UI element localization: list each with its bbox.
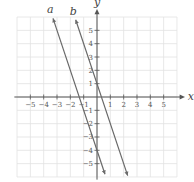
x-axis-label: x	[188, 90, 194, 103]
y-tick-label: 5	[89, 27, 93, 35]
arrowhead-icon	[124, 171, 128, 175]
arrowhead-icon	[52, 18, 56, 22]
y-tick-label: −5	[83, 160, 93, 168]
x-axis-arrow-icon	[180, 95, 185, 100]
x-tick-label: −4	[39, 101, 50, 109]
x-tick-label: 4	[148, 101, 153, 109]
y-tick-label: −4	[83, 147, 94, 155]
x-tick-label: 3	[135, 101, 139, 109]
y-tick-label: 4	[89, 40, 94, 48]
x-tick-label: −5	[25, 101, 35, 109]
axes	[14, 9, 185, 180]
y-tick-label: 1	[89, 80, 93, 88]
x-tick-label: 1	[108, 101, 112, 109]
coordinate-plane: −5−4−3−2−112345−5−4−3−2−112345 ab x y	[0, 0, 194, 182]
arrowhead-icon	[75, 20, 79, 24]
line-label-b: b	[70, 5, 77, 18]
line-label-a: a	[47, 3, 54, 16]
y-axis-label: y	[93, 0, 101, 9]
x-tick-label: −3	[52, 101, 62, 109]
y-axis-arrow-icon	[95, 9, 100, 14]
arrowhead-icon	[102, 170, 106, 174]
x-tick-label: −2	[65, 101, 75, 109]
x-tick-label: 5	[161, 101, 165, 109]
x-tick-label: 2	[121, 101, 125, 109]
